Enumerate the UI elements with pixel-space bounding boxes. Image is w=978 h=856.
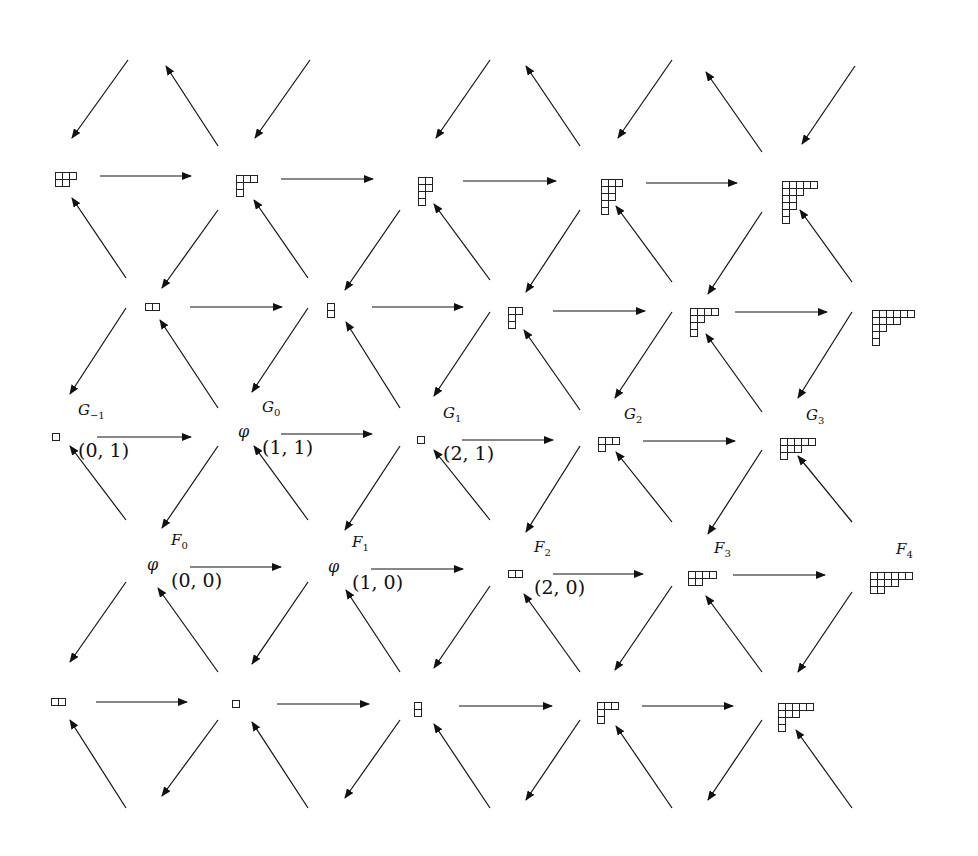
node-coordinate: (1, 0) bbox=[352, 571, 403, 593]
node-label: F4 bbox=[896, 540, 913, 560]
arrow bbox=[345, 210, 400, 290]
arrow bbox=[252, 308, 308, 392]
arrow bbox=[798, 312, 852, 398]
arrow-lines bbox=[70, 60, 855, 808]
arrow bbox=[796, 730, 852, 808]
arrow bbox=[346, 590, 400, 672]
node-label: G0 bbox=[262, 398, 280, 418]
young-diagram bbox=[55, 172, 76, 186]
arrow bbox=[434, 312, 490, 396]
node-label: F3 bbox=[714, 539, 731, 559]
arrow bbox=[434, 724, 490, 808]
arrow bbox=[434, 204, 490, 280]
arrow bbox=[434, 586, 490, 668]
node-label: F0 bbox=[171, 531, 188, 551]
arrow bbox=[802, 66, 855, 144]
arrow bbox=[254, 200, 308, 278]
arrow bbox=[162, 210, 218, 288]
arrow bbox=[72, 60, 128, 138]
node-coordinate: (2, 0) bbox=[534, 576, 585, 598]
arrow bbox=[345, 446, 400, 530]
young-diagram bbox=[508, 307, 522, 328]
arrow bbox=[70, 308, 126, 394]
arrow bbox=[708, 212, 762, 294]
arrow bbox=[158, 588, 218, 672]
arrow bbox=[706, 334, 762, 412]
arrow bbox=[162, 720, 218, 796]
arrow bbox=[346, 322, 400, 408]
young-diagram bbox=[601, 179, 622, 214]
arrow bbox=[70, 720, 126, 808]
young-diagram bbox=[872, 310, 914, 345]
arrow bbox=[166, 66, 218, 146]
young-diagram bbox=[778, 703, 813, 731]
arrow bbox=[524, 330, 580, 410]
node-coordinate: (1, 1) bbox=[262, 436, 313, 458]
young-diagram bbox=[414, 702, 421, 716]
node-coordinate: (0, 0) bbox=[171, 569, 222, 591]
arrow bbox=[70, 582, 126, 662]
young-diagram bbox=[51, 698, 65, 705]
node-label: F2 bbox=[534, 538, 551, 558]
young-diagram bbox=[145, 303, 159, 310]
node-label: G1 bbox=[443, 404, 461, 424]
arrow bbox=[72, 198, 126, 278]
arrow bbox=[708, 450, 762, 534]
node-label: G2 bbox=[624, 405, 642, 425]
arrow bbox=[252, 722, 308, 808]
arrow bbox=[526, 66, 580, 146]
young-diagram bbox=[597, 702, 618, 723]
arrow bbox=[708, 720, 762, 800]
arrow bbox=[706, 72, 762, 152]
arrow bbox=[526, 446, 580, 532]
arrow bbox=[798, 592, 852, 672]
young-diagram bbox=[690, 308, 718, 336]
young-diagram bbox=[418, 177, 432, 205]
arrow bbox=[798, 456, 852, 522]
arrow bbox=[616, 726, 672, 808]
young-diagram bbox=[232, 700, 239, 707]
arrow bbox=[615, 312, 672, 398]
arrow bbox=[615, 586, 672, 670]
arrow bbox=[526, 210, 580, 292]
arrow bbox=[255, 60, 310, 138]
arrow bbox=[616, 206, 672, 282]
node-label: G−1 bbox=[78, 401, 105, 421]
node-label: G3 bbox=[806, 406, 824, 426]
arrow bbox=[252, 582, 308, 664]
young-diagram bbox=[688, 571, 716, 585]
arrow bbox=[524, 594, 580, 672]
arrow bbox=[345, 720, 400, 798]
empty-partition: φ bbox=[238, 422, 249, 441]
arrows-layer bbox=[0, 0, 978, 856]
node-label: F1 bbox=[352, 533, 369, 553]
arrow bbox=[616, 452, 672, 522]
young-lattice-diagram: G−1(0, 1)φG0(1, 1)G1(2, 1)G2G3φF0(0, 0)φ… bbox=[0, 0, 978, 856]
empty-partition: φ bbox=[328, 557, 339, 576]
young-diagram bbox=[870, 572, 912, 593]
arrow bbox=[706, 596, 762, 672]
young-diagram bbox=[417, 436, 424, 443]
young-diagram bbox=[598, 437, 619, 451]
node-coordinate: (2, 1) bbox=[443, 442, 494, 464]
young-diagram bbox=[780, 438, 815, 459]
young-diagram bbox=[782, 181, 817, 223]
young-diagram bbox=[52, 433, 59, 440]
young-diagram bbox=[508, 570, 522, 577]
empty-partition: φ bbox=[147, 555, 158, 574]
arrow bbox=[618, 60, 672, 138]
young-diagram bbox=[327, 303, 334, 317]
arrow bbox=[162, 446, 218, 528]
node-coordinate: (0, 1) bbox=[78, 439, 129, 461]
arrow bbox=[160, 320, 218, 408]
young-diagram bbox=[236, 175, 257, 196]
arrow bbox=[436, 60, 490, 138]
arrow bbox=[526, 720, 580, 800]
